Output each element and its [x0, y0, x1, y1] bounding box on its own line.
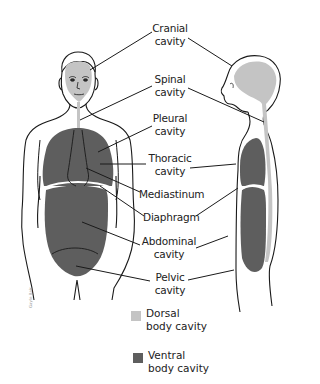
- front-abdominopelvic-cavity: [45, 186, 108, 277]
- label-diaphragm: Diaphragm: [143, 211, 197, 224]
- leader-spinal-front: [80, 86, 152, 120]
- label-thoracic-cavity: Thoracic cavity: [146, 152, 194, 177]
- side-abdominopelvic-cavity: [241, 187, 267, 272]
- front-right-arm-inner: [116, 176, 117, 228]
- legend-dorsal: Dorsal body cavity: [131, 307, 207, 333]
- leader-cranial-side: [188, 38, 232, 66]
- front-leg-gap: [74, 280, 80, 300]
- legend-ventral: Ventral body cavity: [133, 349, 209, 375]
- label-mediastinum: Mediastinum: [139, 188, 203, 201]
- legend-ventral-sub: body cavity: [148, 362, 209, 375]
- label-abdominal-cavity: Abdominal cavity: [141, 235, 197, 260]
- front-spinal-cavity: [77, 102, 80, 130]
- leader-pleural: [98, 126, 152, 152]
- dorsal-swatch: [131, 311, 141, 321]
- side-ear: [230, 83, 233, 88]
- label-spinal-cavity: Spinal cavity: [150, 73, 190, 98]
- legend-dorsal-sub: body cavity: [146, 320, 207, 333]
- leader-cranial-front: [90, 32, 152, 70]
- front-dorsal-cavity: [65, 62, 92, 131]
- label-cranial-cavity: Cranial cavity: [150, 22, 190, 47]
- leader-pelvic-side: [188, 270, 234, 280]
- legend-ventral-name: Ventral: [148, 349, 209, 362]
- leader-pelvic-front: [76, 266, 150, 281]
- leader-thoracic-side: [190, 164, 236, 168]
- artist-credit: Gayle Bair: [28, 287, 33, 308]
- label-pleural-cavity: Pleural cavity: [150, 112, 190, 137]
- side-cranial-cavity: [234, 62, 276, 104]
- side-ventral-cavity: [240, 138, 266, 272]
- ventral-swatch: [133, 353, 143, 363]
- leader-abdominal-side: [196, 236, 228, 248]
- label-pelvic-cavity: Pelvic cavity: [150, 271, 190, 296]
- legend-dorsal-name: Dorsal: [146, 307, 207, 320]
- side-thoracic-cavity: [240, 138, 266, 186]
- front-cranial-cavity: [65, 62, 92, 103]
- front-thoracic-cavity: [43, 128, 114, 186]
